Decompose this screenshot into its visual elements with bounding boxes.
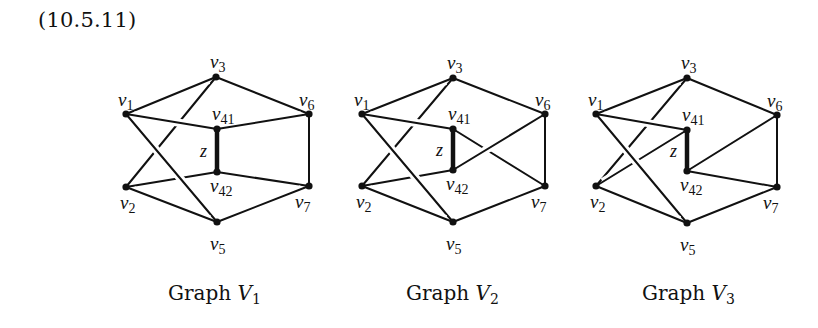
caption-word: Graph <box>168 281 231 305</box>
graph-v1: zv1v3v41v6v42v2v7v5 <box>118 51 314 257</box>
vertex-label-v3: v3 <box>210 51 225 75</box>
vertex-label-v1: v1 <box>588 89 603 113</box>
vertex-label-v7: v7 <box>763 192 778 216</box>
edge-label-z: z <box>669 141 677 161</box>
vertex-label-v42: v42 <box>446 173 468 197</box>
caption-sub: 3 <box>726 291 735 307</box>
vertex-label-v5: v5 <box>210 233 225 257</box>
vertex-v5 <box>213 218 220 225</box>
vertex-v2 <box>592 182 599 189</box>
edge-v3-v6 <box>216 77 309 114</box>
graph-v2: zv1v3v41v6v42v2v7v5 <box>354 52 550 257</box>
vertex-label-v42: v42 <box>680 174 702 198</box>
vertex-label-v42: v42 <box>210 175 232 199</box>
caption-graph-v3: Graph V3 <box>642 281 735 307</box>
vertex-v2 <box>122 183 129 190</box>
vertex-label-v41: v41 <box>682 104 704 128</box>
vertex-label-v7: v7 <box>531 191 546 215</box>
caption-var: V <box>476 281 490 305</box>
vertex-v5 <box>449 218 456 225</box>
vertex-label-v6: v6 <box>299 89 314 113</box>
vertex-label-v7: v7 <box>295 191 310 215</box>
vertex-v7 <box>773 183 780 190</box>
graph-v3: zv1v3v41v6v42v2v7v5 <box>588 52 782 258</box>
vertex-label-v3: v3 <box>681 52 696 76</box>
caption-graph-v2: Graph V2 <box>406 281 499 307</box>
edge-v3-v6 <box>453 78 545 114</box>
edge-v3-v6 <box>687 78 777 115</box>
vertex-label-v1: v1 <box>354 89 369 113</box>
edge-label-z: z <box>435 140 443 160</box>
vertex-v2 <box>358 182 365 189</box>
graph-diagrams: zv1v3v41v6v42v2v7v5zv1v3v41v6v42v2v7v5zv… <box>0 0 818 328</box>
vertex-label-v2: v2 <box>590 191 605 215</box>
vertex-label-v6: v6 <box>767 90 782 114</box>
caption-word: Graph <box>642 281 705 305</box>
vertex-label-v5: v5 <box>446 233 461 257</box>
vertex-label-v1: v1 <box>118 89 133 113</box>
vertex-v7 <box>541 182 548 189</box>
edge-label-z: z <box>199 141 207 161</box>
caption-word: Graph <box>406 281 469 305</box>
vertex-label-v6: v6 <box>535 89 550 113</box>
caption-sub: 1 <box>252 291 261 307</box>
vertex-v7 <box>305 182 312 189</box>
caption-var: V <box>712 281 726 305</box>
caption-var: V <box>238 281 252 305</box>
caption-graph-v1: Graph V1 <box>168 281 261 307</box>
vertex-label-v41: v41 <box>448 103 470 127</box>
vertex-label-v41: v41 <box>212 103 234 127</box>
vertex-label-v5: v5 <box>680 234 695 258</box>
vertex-v5 <box>683 219 690 226</box>
vertex-label-v2: v2 <box>120 192 135 216</box>
vertex-label-v2: v2 <box>356 191 371 215</box>
vertex-label-v3: v3 <box>447 52 462 76</box>
caption-sub: 2 <box>490 291 499 307</box>
